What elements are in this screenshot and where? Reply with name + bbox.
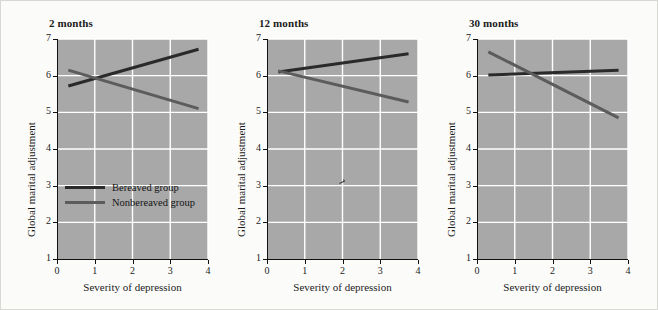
y-tick-mark [473,76,477,77]
x-tick-label: 4 [618,265,638,276]
x-tick-mark [515,260,516,264]
series-line-nonbereaved-group [488,52,618,118]
x-tick-mark [170,260,171,264]
y-tick-label: 1 [245,252,261,263]
y-tick-mark [53,149,57,150]
chart-panel-1: 2 months123456701234Global marital adjus… [1,1,211,310]
y-axis-label: Global marital adjustment [25,122,37,237]
legend-label: Nonbereaved group [112,197,195,208]
x-tick-mark [380,260,381,264]
y-axis-label: Global marital adjustment [445,122,457,237]
y-tick-label: 3 [245,179,261,190]
y-tick-label: 7 [35,32,51,43]
y-tick-mark [263,149,267,150]
y-tick-mark [53,39,57,40]
x-tick-mark [267,260,268,264]
plot-svg [267,39,418,259]
y-tick-label: 5 [35,105,51,116]
x-tick-label: 1 [295,265,315,276]
series-line-bereaved-group [68,49,198,86]
legend-label: Bereaved group [112,182,179,193]
legend-item: Bereaved group [65,180,195,195]
x-axis-label: Severity of depression [57,281,208,293]
x-tick-label: 3 [370,265,390,276]
y-tick-label: 3 [35,179,51,190]
x-tick-label: 1 [85,265,105,276]
x-tick-label: 0 [467,265,487,276]
panel-title: 30 months [469,17,519,29]
y-tick-label: 6 [455,69,471,80]
legend-swatch [65,186,105,189]
plot-area-wrapper [477,39,628,259]
y-tick-label: 2 [35,215,51,226]
y-tick-label: 7 [455,32,471,43]
y-tick-mark [473,149,477,150]
figure-container: 2 months123456701234Global marital adjus… [0,0,658,310]
x-tick-label: 3 [160,265,180,276]
y-axis-line [57,39,58,259]
y-tick-label: 4 [35,142,51,153]
y-axis-label: Global marital adjustment [235,122,247,237]
y-axis-line [267,39,268,259]
y-tick-mark [53,222,57,223]
y-tick-mark [473,186,477,187]
y-tick-label: 1 [455,252,471,263]
y-tick-mark [53,76,57,77]
x-axis-label: Severity of depression [477,281,628,293]
panel-title: 12 months [259,17,309,29]
x-tick-mark [553,260,554,264]
chart-panel-2: 12 months123456701234Global marital adju… [211,1,421,310]
plot-svg [57,39,208,259]
x-tick-mark [95,260,96,264]
x-tick-mark [477,260,478,264]
x-tick-mark [418,260,419,264]
x-axis-label: Severity of depression [267,281,418,293]
legend-item: Nonbereaved group [65,195,195,210]
y-tick-mark [263,186,267,187]
y-tick-label: 6 [35,69,51,80]
x-tick-mark [305,260,306,264]
y-tick-label: 4 [455,142,471,153]
x-tick-mark [133,260,134,264]
x-tick-mark [628,260,629,264]
y-tick-label: 5 [245,105,261,116]
plot-area-wrapper [57,39,208,259]
y-tick-mark [53,186,57,187]
x-tick-label: 2 [543,265,563,276]
chart-panel-3: 30 months123456701234Global marital adju… [421,1,631,310]
y-tick-mark [263,76,267,77]
y-tick-label: 2 [455,215,471,226]
x-tick-label: 3 [580,265,600,276]
y-tick-mark [263,222,267,223]
y-tick-mark [53,112,57,113]
y-tick-mark [473,39,477,40]
y-tick-label: 7 [245,32,261,43]
x-tick-mark [343,260,344,264]
x-tick-mark [590,260,591,264]
y-tick-label: 3 [455,179,471,190]
y-tick-mark [263,39,267,40]
x-tick-mark [208,260,209,264]
plot-svg [477,39,628,259]
y-tick-mark [473,112,477,113]
chart-legend: Bereaved groupNonbereaved group [65,180,195,210]
legend-swatch [65,201,105,204]
series-line-bereaved-group [488,70,618,75]
y-tick-mark [263,112,267,113]
y-tick-label: 1 [35,252,51,263]
y-tick-label: 6 [245,69,261,80]
plot-area-wrapper [267,39,418,259]
x-tick-label: 1 [505,265,525,276]
series-line-bereaved-group [278,54,408,72]
y-tick-mark [473,222,477,223]
y-axis-line [477,39,478,259]
x-tick-label: 2 [333,265,353,276]
x-tick-label: 0 [257,265,277,276]
y-tick-label: 5 [455,105,471,116]
x-tick-mark [57,260,58,264]
y-tick-label: 4 [245,142,261,153]
panel-title: 2 months [49,17,93,29]
x-tick-label: 0 [47,265,67,276]
y-tick-label: 2 [245,215,261,226]
x-tick-label: 2 [123,265,143,276]
